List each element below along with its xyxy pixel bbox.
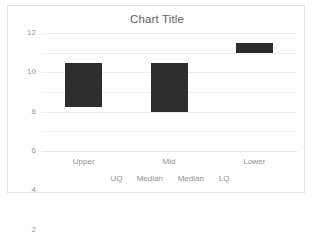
bar-mid[interactable]: [151, 63, 188, 112]
x-axis-sublabel-2: Median: [178, 173, 204, 185]
y-axis-tick-label: 10: [27, 68, 36, 76]
x-axis-sublabel-1: Median: [137, 173, 163, 185]
gridline-10: 10: [41, 53, 297, 54]
chart-title: Chart Title: [8, 13, 306, 25]
y-axis-tick-label: 12: [27, 29, 36, 37]
x-axis-sublabel-3: LQ: [219, 173, 230, 185]
bar-upper[interactable]: [65, 63, 102, 107]
x-axis-label-mid: Mid: [163, 156, 176, 168]
gridline-2: 2: [41, 131, 297, 132]
plot-area: 121086420: [41, 33, 297, 151]
x-axis-label-upper: Upper: [73, 156, 95, 168]
x-axis-primary-labels: UpperMidLower: [41, 156, 297, 168]
x-axis-sublabel-0: UQ: [111, 173, 123, 185]
y-axis-tick-label: 4: [32, 186, 36, 194]
gridline-0: 0: [41, 151, 297, 152]
x-axis-label-lower: Lower: [243, 156, 265, 168]
y-axis-tick-label: 8: [32, 108, 36, 116]
y-axis-tick-label: 6: [32, 147, 36, 155]
x-axis-secondary-labels: UQMedianMedianLQ: [41, 173, 297, 185]
gridline-4: 4: [41, 112, 297, 113]
gridline-12: 12: [41, 33, 297, 34]
chart-container: Chart Title 121086420 UpperMidLower UQMe…: [7, 5, 305, 193]
bar-lower[interactable]: [236, 43, 273, 53]
